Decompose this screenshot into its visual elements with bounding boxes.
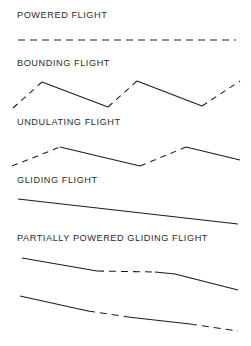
panel-label-gliding-flight: GLIDING FLIGHT [17,175,98,185]
trace-undulating-flight [0,136,251,176]
panel-label-partially-powered-gliding-flight: PARTIALLY POWERED GLIDING FLIGHT [17,233,208,243]
trace-powered-flight [0,30,251,52]
panel-label-powered-flight: POWERED FLIGHT [17,10,107,20]
trace-bounding-flight [0,74,251,118]
flight-pattern-figure: POWERED FLIGHT BOUNDING FLIGHT UNDULATIN… [0,0,251,346]
panel-label-undulating-flight: UNDULATING FLIGHT [17,117,121,127]
trace-partially-powered-gliding-flight [0,250,251,346]
trace-gliding-flight [0,192,251,232]
panel-label-bounding-flight: BOUNDING FLIGHT [17,58,110,68]
